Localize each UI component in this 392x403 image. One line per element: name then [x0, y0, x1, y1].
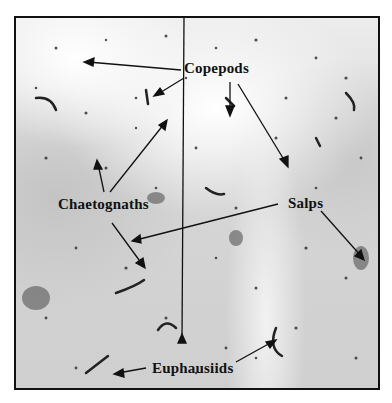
label-chaetognaths: Chaetognaths: [58, 196, 149, 213]
label-copepods: Copepods: [184, 60, 249, 77]
label-euphausiids: Euphausiids: [152, 360, 233, 377]
plankton-photo: Copepods Chaetognaths Salps Euphausiids: [14, 16, 380, 390]
label-salps: Salps: [288, 195, 323, 212]
